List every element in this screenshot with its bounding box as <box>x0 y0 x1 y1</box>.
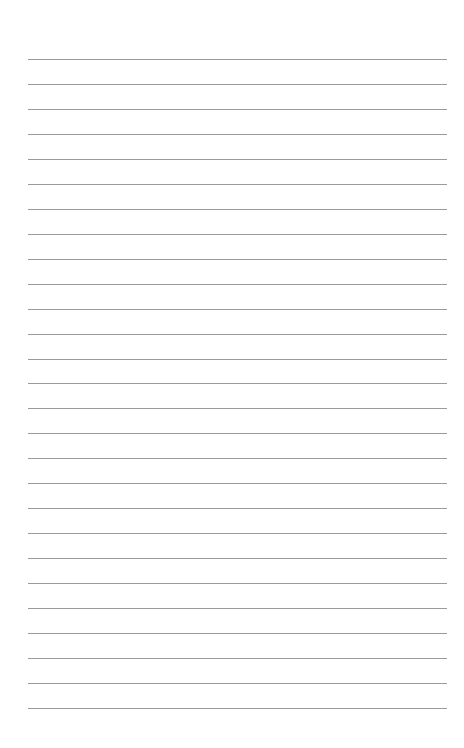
ruled-line <box>28 84 447 85</box>
ruled-line <box>28 134 447 135</box>
ruled-line <box>28 608 447 609</box>
ruled-line <box>28 209 447 210</box>
ruled-line <box>28 558 447 559</box>
ruled-line <box>28 109 447 110</box>
ruled-line <box>28 633 447 634</box>
ruled-line <box>28 533 447 534</box>
ruled-line <box>28 309 447 310</box>
ruled-line <box>28 159 447 160</box>
ruled-line <box>28 583 447 584</box>
ruled-line <box>28 683 447 684</box>
ruled-line <box>28 184 447 185</box>
ruled-line <box>28 658 447 659</box>
ruled-line <box>28 408 447 409</box>
ruled-line <box>28 59 447 60</box>
lined-paper-page <box>0 0 464 748</box>
ruled-line <box>28 508 447 509</box>
ruled-line <box>28 458 447 459</box>
ruled-line <box>28 433 447 434</box>
ruled-line <box>28 234 447 235</box>
ruled-line <box>28 284 447 285</box>
ruled-line <box>28 359 447 360</box>
ruled-line <box>28 334 447 335</box>
ruled-line <box>28 259 447 260</box>
ruled-line <box>28 383 447 384</box>
ruled-line <box>28 708 447 709</box>
ruled-line <box>28 483 447 484</box>
